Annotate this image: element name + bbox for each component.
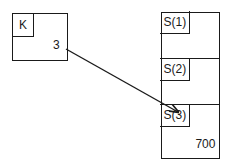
pointer-arrow [0, 0, 233, 168]
